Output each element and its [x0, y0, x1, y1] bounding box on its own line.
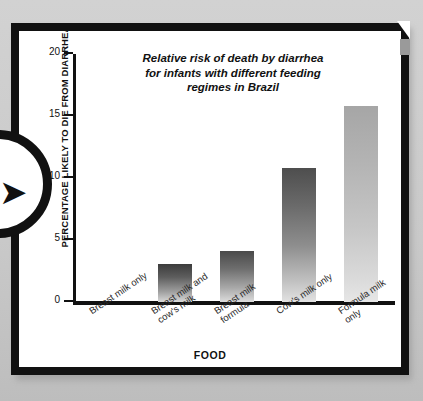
bar-chart: PERCENTAGE LIKELY TO DIE FROM DIARRHEA R…: [19, 31, 401, 367]
y-tick-label-20: 20: [49, 46, 60, 57]
y-tick-15: 15: [64, 114, 73, 116]
y-tick-label-5: 5: [54, 232, 60, 243]
y-axis-line: [73, 54, 76, 303]
y-tick-10: 10: [64, 176, 73, 178]
x-axis-title: FOOD: [19, 349, 401, 361]
y-tick-0: 0: [64, 300, 73, 302]
y-tick-20: 20: [64, 52, 73, 54]
corner-notch-shadow: [400, 39, 410, 55]
y-tick-5: 5: [64, 238, 73, 240]
y-tick-label-15: 15: [49, 108, 60, 119]
y-tick-label-10: 10: [49, 170, 60, 181]
bar-formula-milk-only[interactable]: [344, 106, 378, 302]
y-tick-label-0: 0: [54, 294, 60, 305]
y-axis-title: PERCENTAGE LIKELY TO DIE FROM DIARRHEA: [59, 12, 70, 262]
